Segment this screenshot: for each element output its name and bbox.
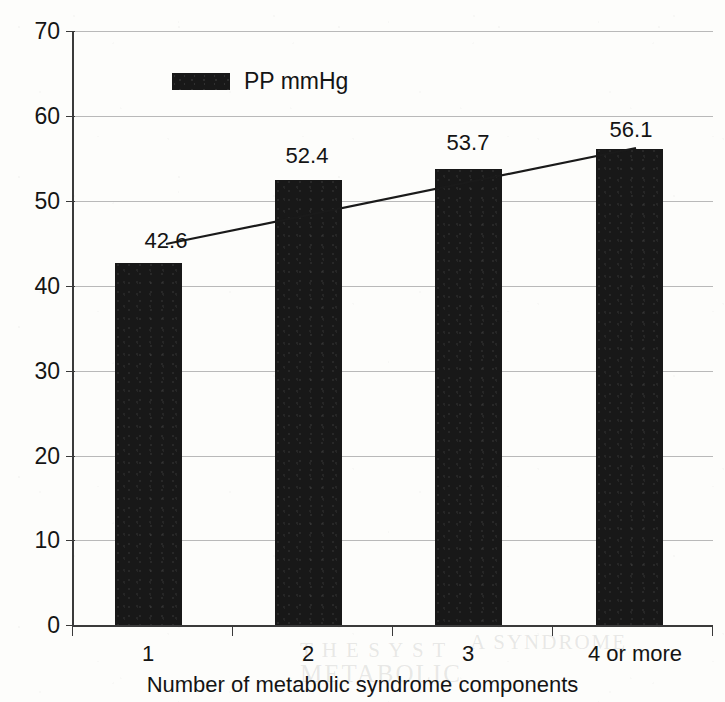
y-tick-label-0: 0 — [47, 614, 60, 637]
y-tick-label-60: 60 — [34, 105, 60, 128]
y-tick-mark-60 — [66, 116, 75, 117]
x-axis-title: Number of metabolic syndrome components — [0, 672, 725, 698]
y-tick-mark-20 — [66, 456, 75, 457]
data-label-bar-3: 53.7 — [447, 130, 490, 156]
y-tick-label-70: 70 — [34, 20, 60, 43]
ghost-artifact-text-1: T H E S Y S T — [300, 638, 447, 663]
y-tick-label-50: 50 — [34, 190, 60, 213]
y-tick-mark-50 — [66, 201, 75, 202]
y-tick-label-30: 30 — [34, 360, 60, 383]
bar-category-4-or-more — [596, 149, 663, 625]
y-tick-mark-30 — [66, 371, 75, 372]
data-label-bar-4: 56.1 — [610, 117, 653, 143]
bar-category-2 — [275, 180, 342, 625]
x-tick-label-1: 1 — [142, 641, 154, 667]
x-tick-mark-3 — [552, 626, 553, 636]
y-tick-mark-10 — [66, 540, 75, 541]
data-label-bar-2: 52.4 — [286, 143, 329, 169]
x-tick-label-2: 2 — [302, 641, 314, 667]
y-tick-mark-40 — [66, 286, 75, 287]
x-tick-mark-end — [712, 626, 713, 636]
gridline-70 — [72, 31, 713, 32]
y-tick-label-40: 40 — [34, 275, 60, 298]
y-tick-mark-70 — [66, 31, 75, 32]
x-tick-mark-start — [72, 626, 73, 636]
legend-swatch-icon — [172, 73, 230, 90]
x-tick-label-4-or-more: 4 or more — [588, 641, 682, 667]
chart-figure: T H E S Y S T METABOLIC A SYNDROME 70 60… — [0, 0, 725, 702]
bar-category-1 — [115, 263, 182, 625]
legend-label-pp-mmhg: PP mmHg — [244, 70, 348, 93]
x-tick-mark-1 — [232, 626, 233, 636]
y-axis-line — [72, 31, 74, 626]
x-tick-label-3: 3 — [462, 641, 474, 667]
chart-legend: PP mmHg — [172, 70, 348, 93]
data-label-bar-1: 42.6 — [145, 228, 188, 254]
bar-category-3 — [435, 169, 502, 625]
y-tick-mark-0 — [66, 625, 75, 626]
x-tick-mark-2 — [392, 626, 393, 636]
y-tick-label-20: 20 — [34, 445, 60, 468]
y-tick-label-10: 10 — [34, 529, 60, 552]
